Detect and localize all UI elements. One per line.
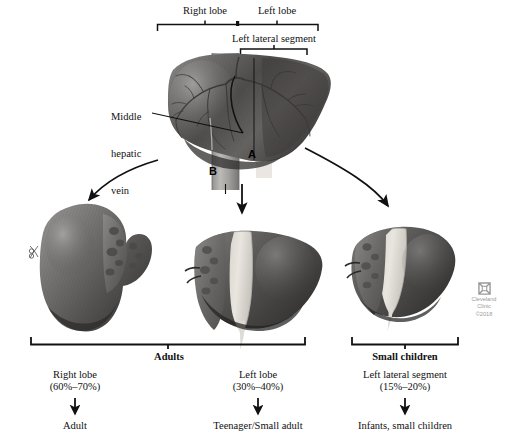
graft-left-lateral-segment: Left lateral segment [348,369,462,381]
bracket-small-children [352,337,458,349]
cleveland-clinic-credit: Cleveland Clinic ©2018 [466,281,502,318]
bracket-right-and-left-lobe [158,21,319,32]
liver-segmentation-figure: Right lobe Left lobe Left lateral segmen… [0,0,513,443]
middle-hepatic-vein-path [231,76,243,133]
main-liver-illustration [168,53,331,190]
left-lateral-segment-graft-illustration [345,227,455,331]
recipient-left-lobe: Teenager/Small adult [193,420,323,432]
lobe-divider-tick [236,21,239,26]
label-middle-hepatic-vein: Middle hepatic vein [111,86,167,222]
marker-a-label: A [246,148,258,161]
recipient-right-lobe: Adult [45,420,105,432]
cleveland-clinic-copyright: ©2018 [466,311,502,318]
label-left-lateral-segment: Left lateral segment [228,33,320,45]
arrow-to-left-lateral-segment-graft [305,148,388,206]
graft-left-lateral-percentage: (15%–20%) [348,381,462,393]
graft-right-lobe-percentage: (60%–70%) [30,381,120,393]
right-lobe-graft-illustration [29,204,152,332]
cleveland-clinic-logo-icon [478,281,491,294]
label-left-lobe: Left lobe [248,5,306,17]
bracket-adults [31,337,305,349]
graft-left-lobe-percentage: (30%–40%) [213,381,303,393]
label-right-lobe: Right lobe [175,5,235,17]
marker-b-label: B [207,165,219,178]
recipient-left-lateral-segment: Infants, small children [338,420,472,432]
callout-line-2: hepatic [111,148,167,160]
cleveland-clinic-name-line-1: Cleveland [466,296,502,303]
left-lobe-graft-illustration [185,231,322,350]
artist-signature-mark [29,246,38,258]
callout-line-1: Middle [111,111,167,123]
callout-line-3: vein [111,185,167,197]
cleveland-clinic-name-line-2: Clinic [466,303,502,310]
label-adults: Adults [138,351,200,363]
label-small-children: Small children [365,351,445,363]
graft-right-lobe-segment: Right lobe [30,369,120,381]
bracket-left-lateral-segment [241,45,308,55]
graft-left-lobe-segment: Left lobe [213,369,303,381]
